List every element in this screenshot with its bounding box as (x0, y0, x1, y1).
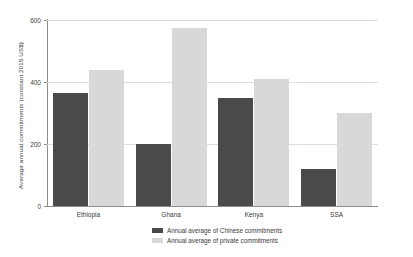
y-axis-tick-label: 200 (1, 141, 41, 148)
x-axis-category-label: Kenya (245, 211, 263, 218)
bar (89, 70, 124, 206)
x-axis-line (47, 206, 378, 207)
legend: Annual average of Chinese commitmentsAnn… (152, 225, 282, 245)
y-axis-title: Average annual commitments (constant 201… (17, 21, 24, 211)
gridline (47, 20, 378, 21)
legend-item: Annual average of private commitments (152, 235, 282, 245)
legend-label: Annual average of private commitments (167, 237, 278, 244)
bar (301, 169, 336, 206)
y-axis-tick-label: 400 (1, 79, 41, 86)
bar (172, 28, 207, 206)
legend-label: Annual average of Chinese commitments (167, 227, 282, 234)
plot-area (47, 20, 378, 206)
legend-swatch (152, 228, 163, 233)
x-axis-category-label: SSA (330, 211, 343, 218)
y-axis-tick-label: 600 (1, 17, 41, 24)
legend-swatch (152, 238, 163, 243)
bar (337, 113, 372, 206)
x-axis-category-label: Ghana (161, 211, 181, 218)
y-axis-tick-label: 0 (1, 203, 41, 210)
bar-chart-figure: Average annual commitments (constant 201… (0, 0, 413, 257)
bar (218, 98, 253, 207)
x-axis-category-label: Ethiopia (77, 211, 101, 218)
bar (53, 93, 88, 206)
bar (136, 144, 171, 206)
bar (254, 79, 289, 206)
legend-item: Annual average of Chinese commitments (152, 225, 282, 235)
y-axis-tick-mark (44, 206, 47, 207)
